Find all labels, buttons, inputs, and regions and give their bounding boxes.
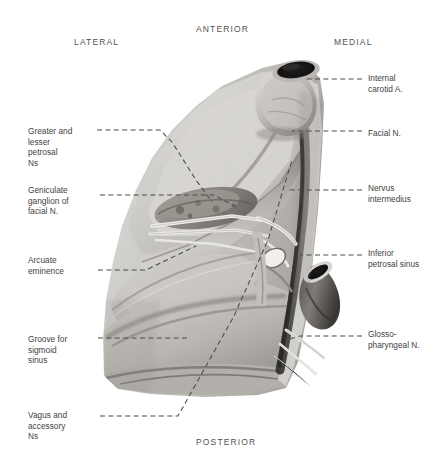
label-glossopharyngeal-nerve: Glosso- pharyngeal N. <box>368 329 420 350</box>
label-arcuate-eminence: Arcuate eminence <box>28 255 64 276</box>
orientation-label-anterior: ANTERIOR <box>196 24 249 34</box>
specimen-illustration <box>0 0 447 469</box>
label-facial-nerve: Facial N. <box>368 128 401 139</box>
orientation-label-lateral: LATERAL <box>74 37 119 47</box>
orientation-label-posterior: POSTERIOR <box>196 437 256 447</box>
anatomical-figure: ANTERIOR LATERAL MEDIAL POSTERIOR Intern… <box>0 0 447 469</box>
label-vagus-accessory-nerves: Vagus and accessory Ns <box>28 410 67 442</box>
temporal-bone-specimen <box>100 57 340 400</box>
label-inferior-petrosal-sinus: Inferior petrosal sinus <box>368 248 419 269</box>
label-internal-carotid-artery: Internal carotid A. <box>368 73 403 94</box>
label-groove-for-sigmoid-sinus: Groove for sigmoid sinus <box>28 334 67 366</box>
orientation-label-medial: MEDIAL <box>334 37 373 47</box>
label-geniculate-ganglion: Geniculate ganglion of facial N. <box>28 185 69 217</box>
label-nervus-intermedius: Nervus intermedius <box>368 183 411 204</box>
label-greater-lesser-petrosal-nerves: Greater and lesser petrosal Ns <box>28 126 72 168</box>
